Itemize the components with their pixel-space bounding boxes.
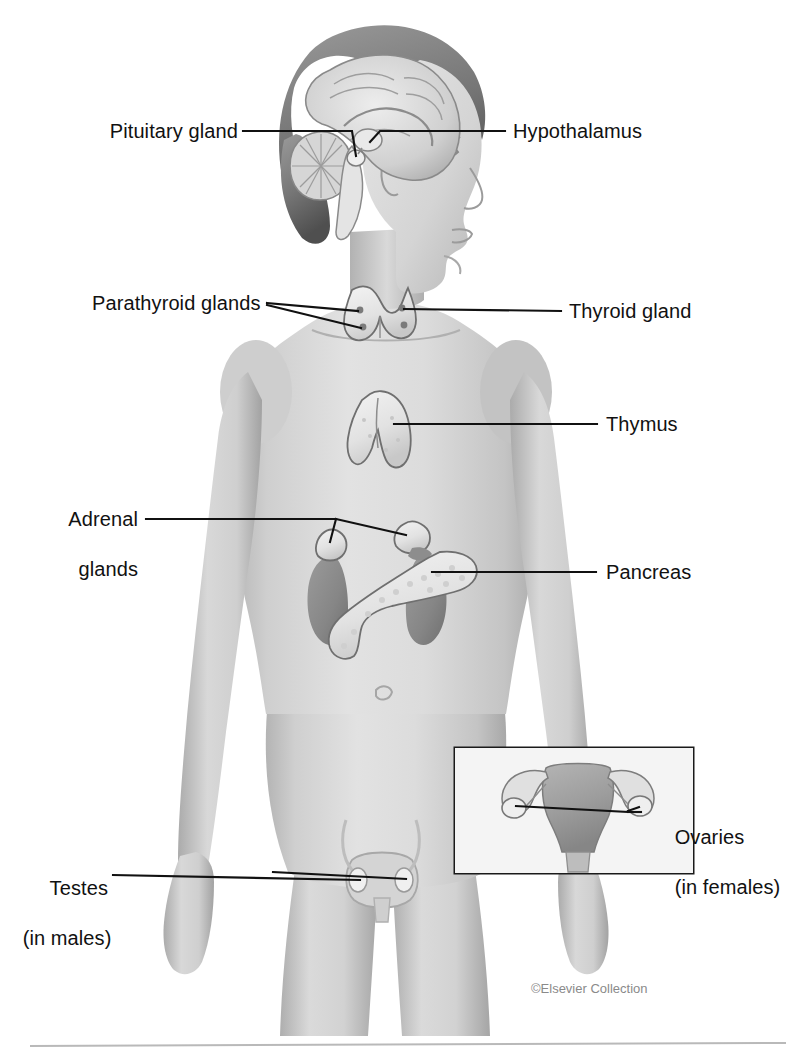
cervix-vagina (566, 852, 590, 872)
label-testes[interactable]: Testes (in males) (0, 851, 108, 976)
label-pancreas[interactable]: Pancreas (606, 560, 766, 585)
label-ovaries-line2: (in females) (675, 876, 781, 898)
label-testes-line1: Testes (50, 877, 108, 899)
copyright-credit: ©Elsevier Collection (531, 981, 648, 996)
label-adrenal-glands-line1: Adrenal (68, 508, 138, 530)
leader-parathyroid-upper (267, 303, 358, 311)
label-ovaries[interactable]: Ovaries (in females) (652, 800, 802, 925)
penis (374, 898, 390, 922)
left-ovary (502, 798, 526, 818)
parathyroid-dot-lower-right (401, 322, 408, 329)
label-adrenal-glands[interactable]: Adrenal glands (14, 482, 138, 607)
label-thymus[interactable]: Thymus (606, 412, 756, 437)
label-pituitary-gland[interactable]: Pituitary gland (106, 119, 238, 144)
label-testes-line2: (in males) (23, 927, 112, 949)
body-illustration (163, 25, 693, 1036)
label-thyroid-gland[interactable]: Thyroid gland (569, 299, 749, 324)
bottom-rule (30, 1043, 786, 1046)
label-adrenal-glands-line2: glands (78, 558, 138, 580)
right-testis (395, 868, 413, 892)
endocrine-system-figure: Pituitary gland Hypothalamus Parathyroid… (0, 0, 811, 1062)
left-arm (178, 372, 262, 871)
label-hypothalamus[interactable]: Hypothalamus (513, 119, 693, 144)
left-hand (163, 852, 214, 974)
label-parathyroid-glands[interactable]: Parathyroid glands (92, 291, 260, 316)
label-ovaries-line1: Ovaries (675, 826, 745, 848)
